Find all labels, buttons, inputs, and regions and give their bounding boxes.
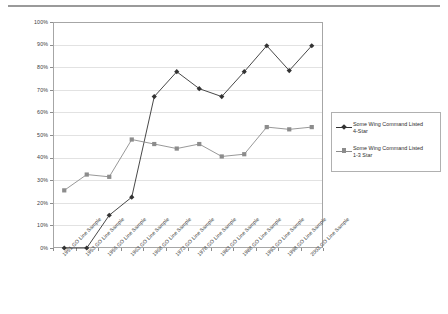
- page-root: 100%90%80%70%60%50%40%30%20%10%0% 1951 G…: [0, 0, 448, 314]
- chart-figure: 100%90%80%70%60%50%40%30%20%10%0% 1951 G…: [0, 12, 448, 312]
- data-point-marker: [287, 127, 291, 131]
- data-point-marker: [152, 142, 156, 146]
- legend-label-1-3-star: Some Wing Command Listed 1-3 Star: [352, 145, 423, 159]
- header-divider: [8, 5, 440, 7]
- legend-entry-1-3-star: Some Wing Command Listed 1-3 Star: [336, 145, 440, 167]
- series-4-star: [62, 43, 315, 250]
- data-point-marker: [265, 125, 269, 129]
- data-point-marker: [130, 137, 134, 141]
- data-point-marker: [62, 188, 66, 192]
- data-point-marker: [310, 125, 314, 129]
- data-point-marker: [197, 142, 201, 146]
- data-point-marker: [85, 172, 89, 176]
- legend-entry-4-star: Some Wing Command Listed 4-Star: [336, 121, 440, 143]
- series-line: [64, 46, 312, 248]
- legend-marker-diamond-icon: [336, 122, 352, 134]
- data-point-marker: [242, 152, 246, 156]
- data-point-marker: [62, 245, 67, 250]
- series-1-3-star: [62, 125, 314, 192]
- legend-label-4-star: Some Wing Command Listed 4-Star: [352, 121, 423, 135]
- data-point-marker: [107, 175, 111, 179]
- chart-legend: Some Wing Command Listed 4-Star Some Win…: [331, 112, 441, 172]
- data-point-marker: [220, 154, 224, 158]
- data-point-marker: [175, 146, 179, 150]
- legend-marker-square-icon: [336, 146, 352, 158]
- series-line: [64, 127, 312, 190]
- data-point-marker: [84, 245, 89, 250]
